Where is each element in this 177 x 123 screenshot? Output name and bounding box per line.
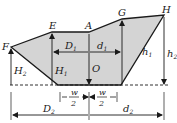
- label-H: H: [161, 4, 171, 15]
- label-h2: h2: [167, 48, 177, 60]
- cross-section-diagram: F E A G H O D1 d1 H2 H1 h1 h2 D2 d2 w 2 …: [0, 0, 177, 123]
- fraction-w-over-2-left: w 2: [69, 88, 79, 108]
- svg-text:2: 2: [70, 99, 76, 108]
- svg-text:w: w: [99, 88, 106, 97]
- svg-text:2: 2: [98, 99, 104, 108]
- label-F: F: [1, 41, 10, 52]
- label-A: A: [84, 20, 92, 31]
- fraction-w-over-2-right: w 2: [97, 88, 107, 108]
- label-O: O: [92, 63, 100, 74]
- label-G: G: [118, 7, 126, 18]
- label-h1: h1: [142, 46, 152, 58]
- label-D2: D2: [42, 103, 55, 115]
- label-E: E: [48, 20, 57, 31]
- label-H2: H2: [13, 65, 27, 77]
- svg-text:w: w: [71, 88, 78, 97]
- label-d2: d2: [123, 103, 133, 115]
